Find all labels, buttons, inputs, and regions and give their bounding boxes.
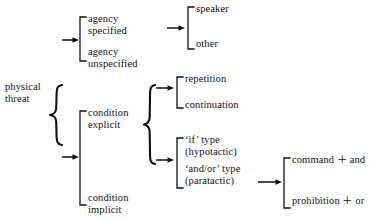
root-brace: [48, 84, 66, 146]
node-if-type: ‘if’ type (hypotactic): [185, 134, 270, 157]
bracket-agency: [79, 16, 87, 62]
bracket-if-and-or: [176, 137, 184, 189]
bracket-speaker-other: [187, 6, 195, 50]
arrow-root-to-condition: [62, 153, 79, 161]
node-speaker: speaker: [196, 3, 266, 15]
bracket-repetition-continuation: [176, 76, 184, 109]
arrow-root-to-agency: [62, 36, 79, 44]
node-condition-implicit: condition implicit: [88, 192, 158, 215]
taxonomy-tree-diagram: physical threat agency specified agency …: [0, 0, 381, 219]
node-agency-unspecified: agency unspecified: [88, 46, 166, 69]
arrow-condition-to-if-type-group: [156, 156, 174, 164]
arrow-agency-to-speaker-group: [167, 24, 185, 32]
arrow-condition-to-repetition-group: [156, 84, 174, 92]
node-agency-specified: agency specified: [88, 13, 158, 36]
node-other: other: [196, 38, 266, 50]
node-command-and: command ＋ and: [292, 154, 381, 166]
node-prohibition-or: prohibition ＋ or: [292, 195, 381, 207]
arrow-and-or-to-command-group: [258, 178, 282, 186]
node-continuation: continuation: [185, 99, 275, 111]
bracket-condition: [79, 110, 87, 206]
bracket-command-prohibition: [283, 157, 291, 209]
condition-explicit-brace: [142, 84, 158, 166]
node-repetition: repetition: [185, 73, 265, 85]
